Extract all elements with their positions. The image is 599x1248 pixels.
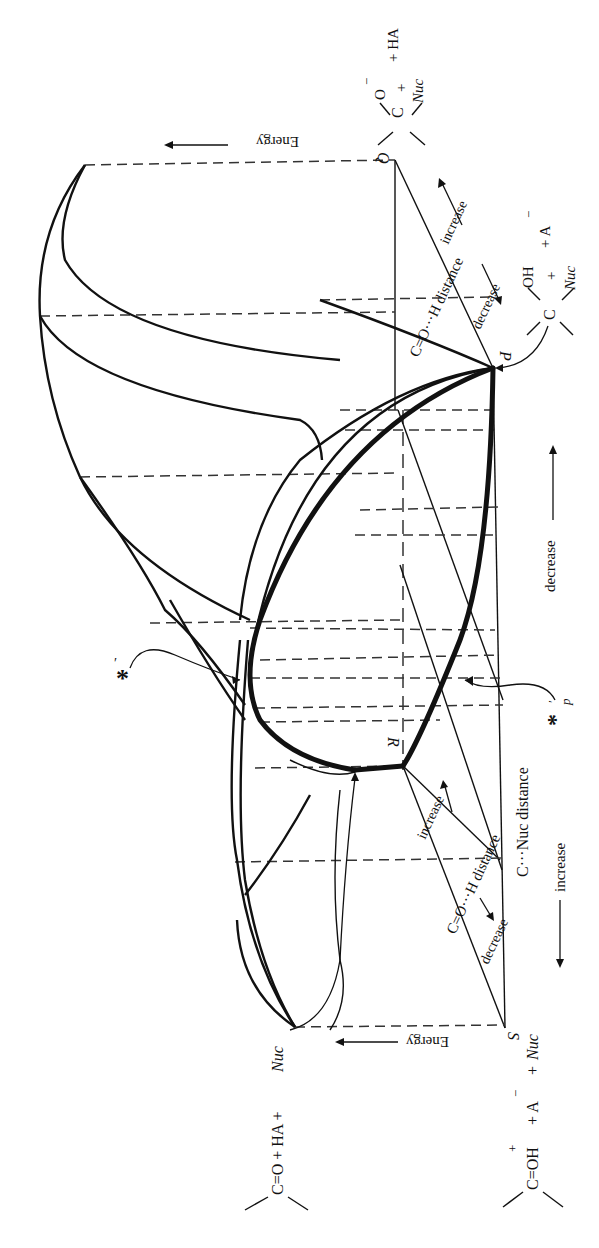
energy-axis-bottom: Energy	[335, 1034, 449, 1050]
c-nuc-decrease-label: decrease	[542, 540, 558, 592]
transition-state-marker: * ′	[114, 656, 129, 693]
alkoxide-carbon: C	[389, 107, 406, 118]
corner-label-s: S	[505, 1032, 522, 1040]
ts-projected-prime: ′	[545, 700, 560, 703]
co-h-distance-axis-bottom: C=O···H distance increase decrease	[414, 780, 511, 966]
protonated-carbonyl-lead: C=OH	[524, 1147, 541, 1190]
energy-label-top: Energy	[255, 134, 299, 150]
edge-q-p	[395, 160, 493, 368]
c-nuc-increase-label: increase	[552, 843, 568, 892]
ts-projected-star: *	[542, 714, 568, 726]
ts-projected-sub: p	[558, 698, 573, 706]
species-carbonyl-reactants: C=O + HA + Nuc	[245, 1046, 308, 1210]
co-h-increase-label-top: increase	[437, 198, 470, 246]
corner-label-q: Q	[375, 152, 392, 164]
tetrahedral-anion-charge: −	[521, 211, 536, 218]
protonated-carbonyl-nuc: Nuc	[524, 1034, 541, 1061]
c-nuc-distance-axis: C···Nuc distance increase decrease	[514, 445, 568, 968]
species-alkoxide: C O − + Nuc + HA	[359, 28, 426, 145]
energy-label-bottom: Energy	[405, 1034, 449, 1050]
carbonyl-reactants-nuc: Nuc	[269, 1046, 286, 1073]
protonated-carbonyl-rest1: + A	[524, 1101, 541, 1125]
c-nuc-distance-label: C···Nuc distance	[514, 767, 531, 877]
tetrahedral-nuc: Nuc	[562, 265, 578, 291]
tetrahedral-carbon: C	[541, 309, 558, 320]
energy-axis-top: Energy	[164, 134, 299, 150]
co-h-distance-axis-top: C=O···H distance increase decrease	[406, 178, 503, 359]
co-h-increase-label-bottom: increase	[414, 793, 447, 841]
ts-star: *	[116, 664, 129, 693]
carbonyl-reactants-lead: C=O + HA +	[269, 1111, 286, 1195]
ts-prime: ′	[114, 656, 117, 671]
edge-r-s	[403, 766, 505, 1028]
tetrahedral-hydroxyl: OH	[520, 266, 536, 288]
alkoxide-rest: + HA	[385, 28, 401, 62]
projected-transition-state-marker: * p ′	[542, 698, 573, 726]
path-p-to-r-back	[250, 368, 493, 770]
alkoxide-oxygen: O	[372, 89, 388, 100]
species-tetrahedral-alcohol: C OH + Nuc + A −	[520, 211, 578, 335]
alkoxide-nuc: Nuc	[410, 78, 426, 104]
tetrahedral-rest: + A	[537, 226, 553, 248]
corner-label-r: R	[385, 736, 402, 747]
co-h-decrease-label-top: decrease	[469, 281, 503, 331]
alkoxide-plus: +	[393, 84, 409, 92]
species-protonated-carbonyl: C=OH + + A − + Nuc	[503, 1034, 563, 1207]
co-h-decrease-label-bottom: decrease	[477, 916, 511, 966]
protonated-carbonyl-charge: +	[505, 1145, 520, 1152]
protonated-carbonyl-anion-charge: −	[508, 1090, 523, 1097]
reaction-energy-surface-diagram: Q P R S Energy Energy C=O···H distance i…	[0, 0, 599, 1248]
corner-label-p: P	[497, 350, 514, 361]
protonated-carbonyl-rest2: +	[524, 1066, 541, 1075]
alkoxide-charge: −	[359, 78, 374, 85]
tetrahedral-plus: +	[543, 272, 559, 280]
